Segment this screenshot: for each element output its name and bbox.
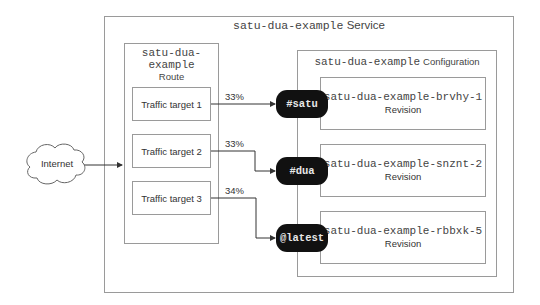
traffic-percent-3: 34% bbox=[225, 185, 244, 196]
tag-satu: #satu bbox=[276, 90, 328, 118]
traffic-percent-2: 33% bbox=[225, 138, 244, 149]
tag-dua: #dua bbox=[276, 157, 328, 185]
internet-label: Internet bbox=[22, 158, 92, 169]
target-2-arrow bbox=[211, 151, 275, 171]
traffic-percent-1: 33% bbox=[225, 91, 244, 102]
target-3-arrow bbox=[211, 198, 275, 238]
tag-latest: @latest bbox=[276, 224, 328, 252]
